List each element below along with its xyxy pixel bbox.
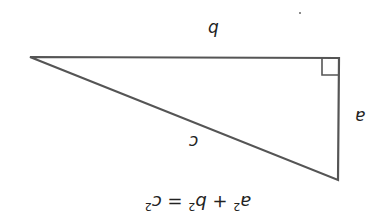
formula-b: b	[195, 192, 206, 213]
formula-plus: +	[212, 192, 227, 213]
hypotenuse-c-label: c	[189, 133, 198, 150]
formula-c-exp: 2	[145, 200, 152, 213]
right-triangle	[30, 57, 339, 180]
triangle-svg	[0, 0, 392, 220]
triangle-diagram	[0, 0, 392, 220]
side-a-label: a	[355, 108, 365, 125]
formula-a-exp: 2	[233, 200, 240, 213]
stray-dot	[299, 12, 301, 14]
side-b-label: b	[208, 20, 219, 37]
right-angle-marker	[322, 58, 339, 75]
formula-a: a	[240, 192, 251, 213]
formula-equals: =	[167, 192, 182, 213]
formula-b-exp: 2	[188, 200, 195, 213]
formula-c: c	[152, 192, 162, 213]
pythagorean-formula: a2 + b2 = c2	[128, 193, 268, 212]
